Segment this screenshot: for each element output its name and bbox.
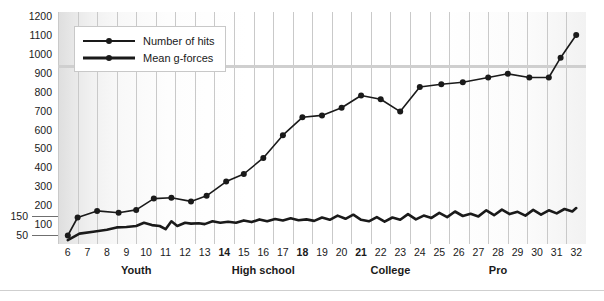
x-tick-label: 12 xyxy=(179,246,191,258)
data-point xyxy=(241,171,247,177)
x-axis-group-labels: YouthHigh schoolCollegePro xyxy=(58,264,586,280)
data-point xyxy=(116,210,122,216)
x-tick-label: 13 xyxy=(199,246,211,258)
x-tick-label: 31 xyxy=(551,246,563,258)
y-tick-label: 1000 xyxy=(18,49,52,60)
x-tick-label: 22 xyxy=(375,246,387,258)
y-tick-label: 900 xyxy=(18,68,52,79)
x-tick-label: 18 xyxy=(297,246,309,258)
x-tick-label: 32 xyxy=(570,246,582,258)
x-tick-label: 19 xyxy=(316,246,328,258)
y-tick-label-secondary: 150 xyxy=(2,210,28,222)
data-point xyxy=(460,79,466,85)
x-tick-label: 20 xyxy=(336,246,348,258)
x-tick-label: 8 xyxy=(104,246,110,258)
line-mean-g-forces xyxy=(68,208,576,240)
y-tick-label: 400 xyxy=(18,162,52,173)
data-point xyxy=(151,196,157,202)
data-point xyxy=(319,112,325,118)
y-tick-label: 700 xyxy=(18,106,52,117)
y-tick-label: 800 xyxy=(18,87,52,98)
x-tick-label: 10 xyxy=(140,246,152,258)
data-point xyxy=(358,93,364,99)
data-point xyxy=(204,193,210,199)
x-tick-label: 21 xyxy=(355,246,367,258)
data-point xyxy=(188,198,194,204)
x-group-label: Youth xyxy=(121,264,151,276)
data-point xyxy=(417,84,423,90)
x-tick-label: 17 xyxy=(277,246,289,258)
x-group-label: High school xyxy=(232,264,295,276)
data-point xyxy=(339,105,345,111)
legend-label-mean-g-forces: Mean g-forces xyxy=(143,52,213,64)
y-tick-label: 1100 xyxy=(18,30,52,41)
y-tick-label: 1200 xyxy=(18,11,52,22)
data-point xyxy=(485,75,491,81)
x-tick-label: 16 xyxy=(257,246,269,258)
data-point xyxy=(280,132,286,138)
y-tick-label: 600 xyxy=(18,125,52,136)
data-point xyxy=(299,114,305,120)
x-tick-label: 15 xyxy=(238,246,250,258)
x-tick-label: 9 xyxy=(124,246,130,258)
data-point xyxy=(573,32,579,38)
data-point xyxy=(526,75,532,81)
legend-marker-line-icon xyxy=(83,52,135,64)
legend-marker-line-icon xyxy=(83,35,135,47)
data-point xyxy=(378,96,384,102)
data-point xyxy=(168,195,174,201)
legend-label-number-of-hits: Number of hits xyxy=(143,35,215,47)
y-tick-rule xyxy=(32,235,58,236)
data-point xyxy=(260,155,266,161)
y-tick-label-secondary: 50 xyxy=(2,229,28,241)
footer-divider xyxy=(0,290,604,291)
y-tick-label: 500 xyxy=(18,143,52,154)
data-point xyxy=(94,208,100,214)
chart-figure: 120011001000900800700600500400300200100 … xyxy=(0,0,604,301)
x-tick-label: 23 xyxy=(394,246,406,258)
data-point xyxy=(438,81,444,87)
legend-item-number-of-hits: Number of hits xyxy=(83,32,215,49)
x-group-label: College xyxy=(371,264,411,276)
x-tick-label: 14 xyxy=(218,246,230,258)
x-tick-label: 26 xyxy=(453,246,465,258)
data-point xyxy=(397,109,403,115)
x-tick-label: 29 xyxy=(512,246,524,258)
data-point xyxy=(223,179,229,185)
data-point xyxy=(505,71,511,77)
x-axis-ticks: 6789101112131415161718192021222324252627… xyxy=(58,246,586,262)
data-point xyxy=(133,207,139,213)
chart-legend: Number of hits Mean g-forces xyxy=(74,26,226,72)
x-tick-label: 25 xyxy=(433,246,445,258)
x-group-label: Pro xyxy=(489,264,507,276)
x-tick-label: 7 xyxy=(84,246,90,258)
x-tick-label: 28 xyxy=(492,246,504,258)
data-point xyxy=(546,75,552,81)
data-point xyxy=(75,215,81,221)
x-tick-label: 30 xyxy=(531,246,543,258)
legend-item-mean-g-forces: Mean g-forces xyxy=(83,49,215,66)
y-tick-label: 300 xyxy=(18,181,52,192)
data-point xyxy=(558,55,564,61)
y-tick-rule xyxy=(32,216,58,217)
x-tick-label: 27 xyxy=(473,246,485,258)
x-tick-label: 11 xyxy=(160,246,171,258)
x-tick-label: 24 xyxy=(414,246,426,258)
x-tick-label: 6 xyxy=(65,246,71,258)
